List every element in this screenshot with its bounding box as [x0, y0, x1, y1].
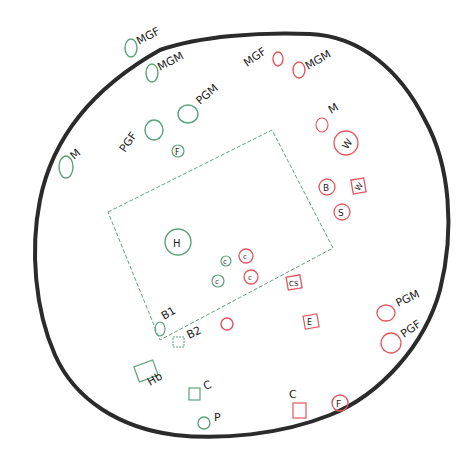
green-node-pgf: PGF — [117, 120, 163, 155]
green-pgm-label: PGM — [194, 81, 221, 107]
svg-text:S: S — [338, 208, 344, 218]
red-node-w-square: W — [351, 178, 366, 194]
red-node-unlabeled — [221, 318, 233, 330]
svg-text:B: B — [323, 183, 329, 193]
svg-text:W: W — [340, 137, 355, 152]
red-node-c: C — [289, 388, 306, 418]
red-node-c1: c — [239, 249, 253, 263]
green-b2-label: B2 — [185, 324, 204, 342]
green-node-b1: B1 — [155, 304, 178, 336]
red-node-f: F — [332, 395, 348, 411]
red-node-c2: c — [244, 270, 258, 284]
green-m-label: M — [68, 146, 84, 162]
green-node-m: M — [59, 146, 83, 178]
house-label: H — [173, 238, 181, 249]
svg-text:E: E — [307, 318, 312, 327]
green-hb-label: Hb — [145, 370, 165, 389]
green-b1-label: B1 — [159, 304, 178, 323]
red-node-b: B — [319, 179, 335, 195]
svg-text:c: c — [248, 274, 252, 282]
svg-text:c: c — [223, 258, 227, 266]
svg-text:F: F — [336, 399, 341, 409]
outer-boundary — [35, 34, 448, 437]
svg-text:c: c — [215, 278, 219, 286]
red-node-s: S — [334, 204, 350, 220]
red-m-label: M — [326, 101, 341, 117]
red-node-w-circle: W — [334, 131, 358, 155]
green-node-b2: B2 — [173, 324, 203, 347]
red-c-label: C — [289, 388, 297, 401]
svg-text:CS: CS — [289, 280, 299, 288]
svg-text:c: c — [243, 253, 247, 261]
green-node-hb: Hb — [134, 360, 165, 389]
red-pgm-label: PGM — [394, 288, 422, 310]
green-node-c1: c — [221, 256, 231, 266]
svg-text:F: F — [175, 148, 180, 157]
svg-text:W: W — [353, 181, 365, 193]
household-boundary — [108, 130, 333, 340]
green-mgm-label: MGM — [155, 49, 185, 73]
red-mgm-label: MGM — [303, 48, 333, 73]
green-p-label: P — [214, 411, 221, 424]
red-node-e: E — [303, 314, 319, 329]
house-node: H — [165, 229, 191, 255]
green-pgf-label: PGF — [117, 130, 140, 155]
green-node-c: C — [189, 378, 214, 400]
red-node-mgm: MGM — [293, 48, 333, 78]
red-node-mgf: MGF — [241, 45, 283, 70]
green-c-label: C — [202, 378, 214, 393]
red-node-pgm: PGM — [377, 288, 422, 321]
green-node-pgm: PGM — [178, 81, 221, 123]
red-node-cs: CS — [286, 275, 302, 290]
red-mgf-label: MGF — [241, 45, 268, 70]
green-node-c2: c — [212, 275, 224, 287]
green-node-p: P — [198, 411, 221, 429]
green-node-f: F — [172, 145, 184, 157]
ecomap-diagram: H MGF MGM PGM PGF M F c c B1 B2 — [0, 0, 466, 462]
red-node-pgf: PGF — [381, 317, 423, 353]
red-node-m: M — [316, 101, 341, 132]
green-mgf-label: MGF — [134, 25, 162, 48]
